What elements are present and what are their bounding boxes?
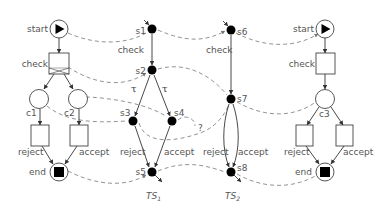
transition-accept — [336, 125, 353, 146]
map-end-s5 — [68, 171, 146, 183]
map-check-s2 — [68, 67, 146, 83]
label-accept: accept — [79, 147, 110, 157]
diagram-canvas: start check c1 c2 reject accept end s1 — [0, 0, 385, 217]
label-c1: c1 — [26, 108, 37, 118]
ts2-title: TS2 — [225, 191, 240, 202]
map-s4-loop — [178, 117, 195, 126]
label-reject: reject — [284, 147, 310, 157]
transition-reject — [31, 125, 49, 146]
label-start: start — [27, 24, 48, 34]
map-s2-s7 — [158, 67, 227, 95]
transition-check — [316, 53, 335, 74]
place-c3 — [316, 90, 335, 109]
label-s6: s6 — [237, 27, 248, 37]
edge-label-check: check — [206, 45, 233, 55]
question-mark: ? — [198, 123, 203, 133]
map-s1-s6 — [158, 30, 225, 39]
stop-square-icon — [320, 167, 330, 177]
transition-reject — [296, 125, 313, 146]
edge-label-accept: accept — [238, 147, 269, 157]
transition-accept — [70, 125, 88, 146]
map-c1-s3 — [47, 106, 127, 122]
left-petri-net: start check c1 c2 reject accept end — [18, 20, 110, 181]
place-c2 — [69, 90, 88, 109]
label-end: end — [295, 167, 312, 177]
label-s4: s4 — [174, 108, 185, 118]
right-petri-net: start check c3 reject accept end — [284, 20, 374, 181]
state-s7 — [227, 95, 236, 104]
edge-label-reject: reject — [120, 147, 146, 157]
label-c3: c3 — [319, 109, 330, 119]
label-check: check — [22, 59, 49, 69]
map-start-s1 — [68, 33, 146, 42]
label-s5: s5 — [136, 167, 146, 177]
edge-label-reject: reject — [203, 147, 229, 157]
edge-label-tau-right: τ — [162, 83, 168, 94]
label-reject: reject — [18, 147, 44, 157]
label-check: check — [289, 59, 316, 69]
map-s7-c3 — [237, 101, 317, 114]
label-s7: s7 — [237, 94, 247, 104]
label-s8: s8 — [237, 163, 248, 173]
stop-square-icon — [54, 167, 64, 177]
state-s6 — [227, 26, 236, 35]
place-c1 — [30, 90, 49, 109]
ts1-title: TS1 — [146, 191, 161, 202]
label-s2: s2 — [136, 66, 146, 76]
edge-label-accept: accept — [164, 147, 195, 157]
transition-system-1: s1 check s2 τ τ s3 s4 ? reject accept s5… — [118, 20, 203, 202]
state-s1 — [148, 25, 157, 34]
label-start: start — [293, 24, 314, 34]
state-s2 — [148, 66, 157, 75]
map-s5-s8 — [158, 165, 225, 172]
map-s6-start — [236, 33, 318, 44]
label-s3: s3 — [120, 108, 130, 118]
label-s1: s1 — [136, 26, 146, 36]
label-accept: accept — [343, 147, 374, 157]
edge-label-tau-left: τ — [131, 83, 137, 94]
label-c2: c2 — [64, 108, 75, 118]
label-end: end — [29, 167, 46, 177]
edge-label-check: check — [118, 45, 145, 55]
